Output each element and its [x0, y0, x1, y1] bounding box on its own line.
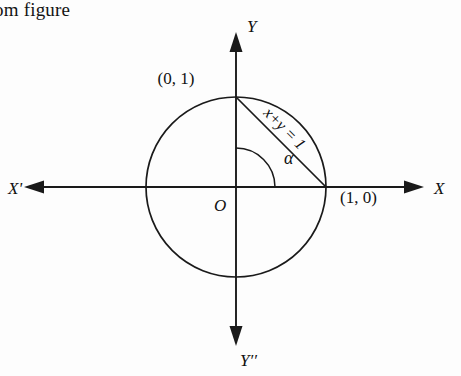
- x-axis-right-arrowhead: [404, 181, 424, 194]
- y-positive-axis-label: Y: [247, 17, 258, 36]
- point-label-one-zero: (1, 0): [340, 188, 377, 207]
- y-axis-top-arrowhead: [230, 32, 243, 52]
- y-negative-axis-label: Y′′: [240, 351, 257, 370]
- x-positive-axis-label: X: [433, 179, 445, 198]
- x-negative-axis-label: X': [7, 179, 22, 198]
- x-axis-left-arrowhead: [24, 181, 44, 194]
- point-label-zero-one: (0, 1): [158, 69, 195, 88]
- y-axis-bottom-arrowhead: [230, 326, 243, 346]
- chord-line: [236, 97, 326, 187]
- origin-label: O: [214, 196, 226, 215]
- unit-circle-figure: X' X Y Y′′ (0, 1) (1, 0) O α x+y = 1: [0, 0, 461, 376]
- angle-label-alpha: α: [284, 148, 294, 168]
- figure-screenshot: om figure X' X Y Y′′ (0, 1) (1, 0) O α x…: [0, 0, 461, 376]
- angle-arc: [236, 148, 275, 187]
